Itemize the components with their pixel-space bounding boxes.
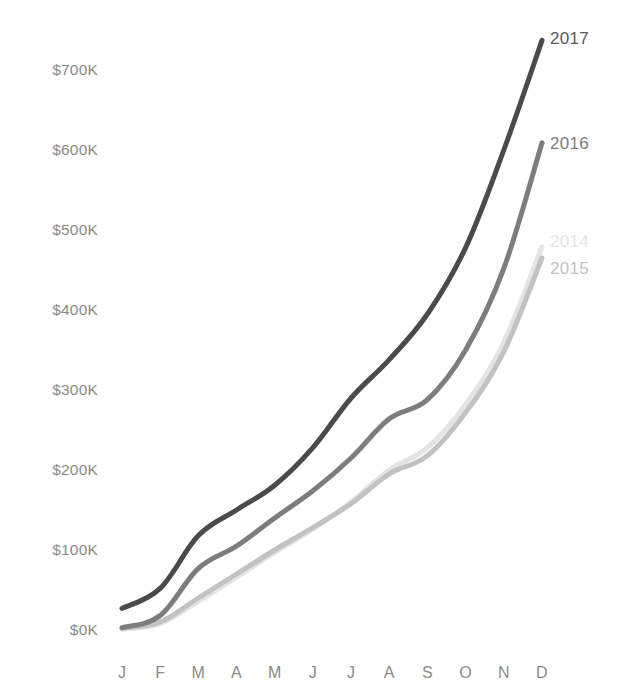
x-axis-tick-label: J bbox=[309, 665, 317, 681]
y-axis-tick-label: $200K bbox=[0, 462, 98, 478]
y-axis-tick-label: $400K bbox=[0, 302, 98, 318]
x-axis-tick-label: M bbox=[192, 665, 206, 681]
x-axis-tick-label: J bbox=[118, 665, 126, 681]
y-axis-tick-label: $0K bbox=[0, 622, 98, 638]
series-label-2016: 2016 bbox=[550, 134, 589, 151]
x-axis-tick-label: M bbox=[268, 665, 282, 681]
y-axis-tick-label: $100K bbox=[0, 542, 98, 558]
series-line-2014 bbox=[122, 247, 542, 629]
y-axis-tick-label: $700K bbox=[0, 62, 98, 78]
y-axis-tick-label: $300K bbox=[0, 382, 98, 398]
series-label-2014: 2014 bbox=[550, 232, 589, 249]
series-lines-group bbox=[122, 40, 542, 629]
series-label-2017: 2017 bbox=[550, 30, 589, 47]
line-chart: $0K$100K$200K$300K$400K$500K$600K$700K J… bbox=[0, 0, 624, 698]
y-axis-tick-label: $500K bbox=[0, 222, 98, 238]
x-axis-tick-label: S bbox=[422, 665, 433, 681]
x-axis-tick-label: D bbox=[536, 665, 548, 681]
x-axis-tick-label: J bbox=[347, 665, 355, 681]
x-axis-tick-label: A bbox=[231, 665, 242, 681]
x-axis-tick-label: O bbox=[459, 665, 472, 681]
series-line-2015 bbox=[122, 258, 542, 628]
y-axis-tick-label: $600K bbox=[0, 142, 98, 158]
x-axis-tick-label: A bbox=[384, 665, 395, 681]
x-axis-tick-label: N bbox=[498, 665, 510, 681]
x-axis-tick-label: F bbox=[155, 665, 165, 681]
chart-plot-area bbox=[0, 0, 624, 698]
series-label-2015: 2015 bbox=[550, 260, 589, 277]
